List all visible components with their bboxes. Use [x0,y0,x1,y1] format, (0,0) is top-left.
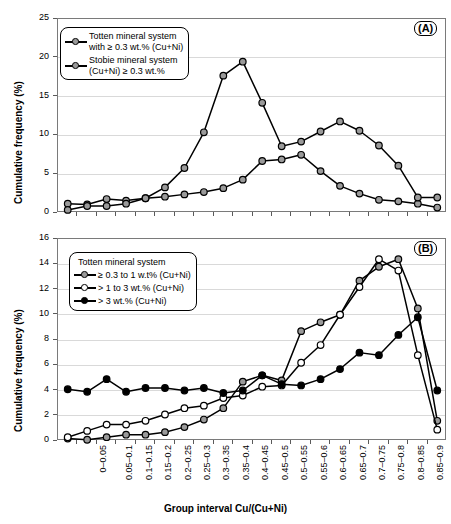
y-tick-label: 25 [21,13,49,22]
x-tick-label: 0.85–0.9 [436,445,445,480]
x-tick-mark [407,440,408,444]
x-tick-mark [154,212,155,216]
y-tick-mark [53,56,57,57]
figure-root: Cumulative frequency (%) Cumulative freq… [0,0,451,524]
y-tick-mark [53,414,57,415]
y-tick-label: 8 [21,334,49,343]
data-point-marker [298,152,305,159]
panel-b-legend: Totten mineral system ≥ 0.3 to 1 w.t% (C… [69,252,197,311]
data-point-marker [123,431,130,438]
x-tick-mark [252,212,253,216]
x-tick-mark [232,212,233,216]
x-tick-mark [213,212,214,216]
x-tick-label: 0.05–0.1 [125,445,134,480]
data-point-marker [123,200,130,207]
x-tick-label: 0.7–0.75 [378,445,387,480]
y-tick-mark [53,238,57,239]
y-tick-mark [53,95,57,96]
x-tick-mark [271,440,272,444]
data-point-marker [220,185,227,192]
x-tick-mark [310,440,311,444]
x-tick-mark [388,212,389,216]
y-tick-mark [53,134,57,135]
data-point-marker [64,207,71,214]
data-point-marker [298,359,305,366]
data-point-marker [84,436,91,443]
x-tick-label: 0.4–0.45 [261,445,270,480]
data-point-marker [376,197,383,204]
x-tick-label: 0.55–0.6 [320,445,329,480]
data-point-marker [317,319,324,326]
y-tick-mark [53,364,57,365]
data-point-marker [395,162,402,169]
x-tick-mark [96,440,97,444]
y-tick-mark [53,288,57,289]
x-tick-mark [174,212,175,216]
y-tick-label: 10 [21,309,49,318]
legend-b-entry-2: > 3 wt.% (Cu+Ni) [74,294,191,307]
data-point-marker [162,385,169,392]
data-point-marker [239,58,246,65]
data-point-marker [356,284,363,291]
y-tick-label: 2 [21,410,49,419]
white-circle-marker-icon [74,282,96,293]
x-tick-mark [154,440,155,444]
y-tick-mark [53,173,57,174]
x-tick-mark [427,440,428,444]
data-point-marker [298,328,305,335]
data-point-marker [376,256,383,263]
y-tick-label: 6 [21,359,49,368]
y-tick-label: 10 [21,129,49,138]
x-axis-title: Group interval Cu/(Cu+Ni) [0,503,451,514]
data-point-marker [103,203,110,210]
x-tick-label: 0.15–0.2 [164,445,173,480]
data-point-marker [142,418,149,425]
x-tick-mark [76,212,77,216]
x-tick-mark [427,212,428,216]
data-point-marker [395,332,402,339]
data-point-marker [298,382,305,389]
data-point-marker [239,387,246,394]
x-tick-label: 0.5–0.55 [300,445,309,480]
legend-a-entry-0-line1: Totten mineral system [87,31,183,42]
x-tick-mark [407,212,408,216]
x-tick-mark [252,440,253,444]
x-tick-label: 0.25–0.3 [203,445,212,480]
data-point-marker [337,183,344,190]
data-point-marker [103,434,110,441]
data-point-marker [395,267,402,274]
black-circle-marker-icon [74,295,96,306]
x-tick-mark [368,212,369,216]
data-point-marker [84,203,91,210]
legend-a-entry-1-line2: (Cu+Ni) ≥ 0.3 wt.% [87,66,178,77]
x-tick-mark [329,212,330,216]
data-point-marker [278,143,285,150]
y-tick-label: 16 [21,233,49,242]
y-tick-mark [53,389,57,390]
data-point-marker [103,376,110,383]
data-point-marker [337,311,344,318]
data-point-marker [201,189,208,196]
y-tick-label: 12 [21,284,49,293]
data-point-marker [434,204,441,211]
data-point-marker [415,194,422,201]
data-point-marker [103,421,110,428]
legend-b-entry-0-label: ≥ 0.3 to 1 w.t% (Cu+Ni) [96,270,191,280]
y-tick-mark [53,212,57,213]
x-tick-mark [96,212,97,216]
data-point-marker [181,191,188,198]
y-tick-label: 5 [21,168,49,177]
data-point-marker [220,72,227,79]
x-tick-mark [213,440,214,444]
data-point-marker [356,190,363,197]
data-point-marker [317,168,324,175]
panel-a-legend: Totten mineral system with ≥ 0.3 wt.% (C… [60,27,189,80]
y-tick-label: 14 [21,258,49,267]
x-tick-label: 0.1–0.15 [145,445,154,480]
grey-circle-marker-icon [65,36,87,47]
data-point-marker [181,387,188,394]
data-point-marker [434,387,441,394]
data-point-marker [337,118,344,125]
x-tick-mark [115,440,116,444]
data-point-marker [395,256,402,263]
